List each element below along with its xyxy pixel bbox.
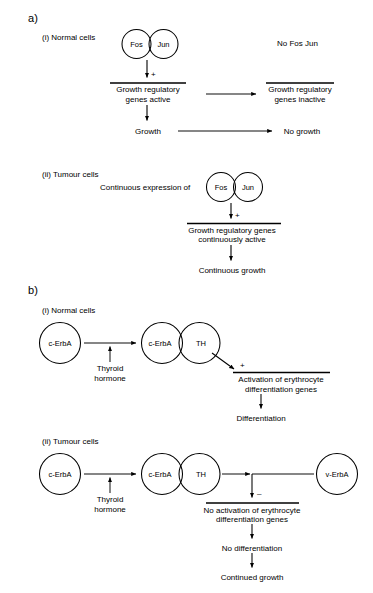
text-genes-cont-active-line2: continuously active	[198, 235, 266, 245]
node-label-fos: Fos	[130, 40, 143, 49]
text-no-activation-line1: No activation of erythrocyte	[204, 506, 301, 516]
section-head-a-tumour-cells: (ii) Tumour cells	[42, 170, 98, 179]
node-label-c-erba-bound-tumour: c-ErbA	[149, 470, 172, 479]
node-label-th-tumour: TH	[196, 470, 206, 479]
node-label-c-erba-bound: c-ErbA	[149, 339, 172, 348]
text-continued-growth: Continued growth	[221, 573, 284, 583]
text-no-activation-line2: differentiation genes	[216, 515, 288, 525]
text-genes-active-line1: Growth regulatory	[116, 85, 180, 95]
arrow-th-to-activation	[212, 353, 234, 369]
text-thyroid-hormone-tumour-line2: hormone	[94, 505, 126, 515]
text-thyroid-hormone-line2: hormone	[94, 374, 126, 384]
text-thyroid-hormone-tumour-line1: Thyroid	[97, 495, 124, 505]
text-no-growth: No growth	[284, 127, 320, 137]
text-genes-cont-active-line1: Growth regulatory genes	[188, 226, 276, 236]
text-genes-inactive-line1: Growth regulatory	[268, 85, 332, 95]
text-genes-inactive-line2: genes inactive	[274, 95, 325, 105]
sign-plus-b-normal: +	[240, 362, 245, 370]
node-label-v-erba: v-ErbA	[326, 470, 349, 479]
section-head-b-normal-cells: (i) Normal cells	[42, 306, 95, 315]
text-differentiation: Differentiation	[236, 414, 285, 424]
section-head-b-tumour-cells: (ii) Tumour cells	[42, 437, 98, 446]
node-label-c-erba-free-tumour: c-ErbA	[49, 470, 72, 479]
text-growth: Growth	[135, 127, 161, 137]
panel-label-a: a)	[28, 12, 38, 24]
text-activation-line2: differentiation genes	[245, 385, 317, 395]
text-no-differentiation: No differentiation	[222, 544, 282, 554]
text-no-fos-jun: No Fos Jun	[277, 39, 318, 49]
node-label-jun: Jun	[157, 40, 169, 49]
node-label-fos-tumour: Fos	[215, 183, 228, 192]
sign-minus-b-tumour: –	[257, 490, 261, 498]
text-thyroid-hormone-line1: Thyroid	[97, 364, 124, 374]
sign-plus-a-normal: +	[151, 71, 156, 79]
section-head-a-normal-cells: (i) Normal cells	[42, 33, 95, 42]
text-continuous-growth: Continuous growth	[199, 266, 266, 276]
figure-canvas: a) (i) Normal cells Fos Jun + No Fos Jun…	[0, 0, 373, 593]
text-continuous-expression: Continuous expression of	[100, 183, 190, 193]
node-label-jun-tumour: Jun	[242, 183, 254, 192]
text-genes-active-line2: genes active	[126, 95, 171, 105]
panel-label-b: b)	[28, 284, 38, 296]
node-label-th: TH	[196, 339, 206, 348]
node-label-c-erba-free: c-ErbA	[49, 339, 72, 348]
text-activation-line1: Activation of erythrocyte	[238, 375, 323, 385]
sign-plus-a-tumour: +	[235, 212, 240, 220]
